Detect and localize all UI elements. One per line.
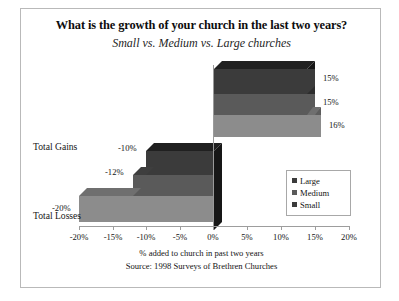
x-tick (79, 226, 80, 230)
bar-front-face (79, 196, 214, 222)
x-tick (180, 226, 181, 230)
legend-swatch-small (292, 202, 297, 207)
value-label-gains-large: 15% (323, 73, 339, 83)
bar-front-face (214, 69, 315, 94)
legend-swatch-medium (292, 190, 297, 195)
x-tick (349, 226, 350, 230)
x-tick (113, 226, 114, 230)
bar-top-face (146, 143, 222, 151)
bar-top-face (214, 61, 315, 69)
chart-subtitle: Small vs. Medium vs. Large churches (21, 36, 382, 51)
legend-label-medium: Medium (300, 188, 329, 198)
chart-title: What is the growth of your church in the… (21, 18, 382, 33)
legend-item-small[interactable]: Small (292, 199, 345, 210)
x-tick-label: 20% (341, 232, 357, 242)
x-tick-label: 0% (207, 232, 218, 242)
x-tick-label: -15% (104, 232, 123, 242)
bar-front-face (214, 115, 321, 137)
x-tick-label: 10% (273, 232, 289, 242)
value-label-gains-medium: 15% (323, 97, 339, 107)
legend-item-medium[interactable]: Medium (292, 187, 345, 198)
legend-label-small: Small (300, 200, 320, 210)
x-tick-label: -10% (137, 232, 156, 242)
x-tick-label: 15% (307, 232, 323, 242)
value-label-gains-small: 16% (329, 120, 345, 130)
source-note: Source: 1998 Surveys of Brethren Churche… (21, 261, 382, 271)
bar-front-face (214, 94, 315, 115)
legend-label-large: Large (300, 176, 320, 186)
bar-gains-medium[interactable] (214, 94, 315, 115)
x-axis-title: % added to church in past two years (21, 248, 382, 258)
category-label-total-gains: Total Gains (33, 141, 77, 152)
chart-legend: Large Medium Small (286, 170, 351, 216)
x-tick-label: 5% (241, 232, 252, 242)
x-tick (213, 226, 214, 230)
bar-losses-large[interactable] (146, 151, 214, 175)
x-axis-line (79, 226, 349, 227)
bar-losses-medium[interactable] (133, 175, 214, 196)
legend-item-large[interactable]: Large (292, 175, 345, 186)
bar-losses-small[interactable] (79, 196, 214, 222)
bar-front-face (146, 151, 214, 175)
x-tick (281, 226, 282, 230)
bar-front-face (133, 175, 214, 196)
x-tick-label: -20% (70, 232, 89, 242)
x-tick (315, 226, 316, 230)
chart-frame: What is the growth of your church in the… (20, 8, 381, 288)
bar-gains-large[interactable] (214, 69, 315, 94)
value-label-losses-large: -10% (118, 143, 137, 153)
value-label-losses-medium: -12% (105, 167, 124, 177)
x-axis: -20% -15% -10% -5% 0% 5% 10% 15% 20% % a… (21, 226, 382, 266)
x-tick (247, 226, 248, 230)
losses-stack-side-face (214, 143, 222, 230)
x-tick (146, 226, 147, 230)
bar-top-face (79, 188, 141, 196)
zero-axis-line (213, 65, 214, 226)
bar-gains-small[interactable] (214, 115, 321, 137)
plot-area: 15% 15% 16% -10% -12% (21, 57, 382, 242)
category-label-total-losses: Total Losses (33, 210, 81, 221)
legend-swatch-large (292, 178, 297, 183)
x-tick-label: -5% (173, 232, 187, 242)
